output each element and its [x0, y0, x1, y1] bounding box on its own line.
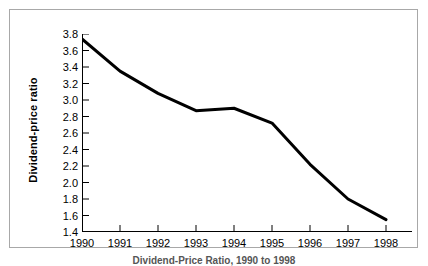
y-axis-tick-label: 3.8 — [40, 29, 78, 40]
y-axis-ticks — [82, 34, 89, 232]
y-axis-tick-label: 2.8 — [40, 111, 78, 122]
x-axis-tick-labels: 199019911992199319941995199619971998 — [10, 238, 428, 254]
y-axis-tick-label: 2.4 — [40, 144, 78, 155]
y-axis-group — [82, 34, 89, 232]
figure-frame: Dividend-price ratio 3.83.63.43.23.02.82… — [9, 9, 418, 248]
y-axis-tick-label: 2.0 — [40, 177, 78, 188]
y-axis-tick-label: 3.6 — [40, 45, 78, 56]
figure-caption: Dividend-Price Ratio, 1990 to 1998 — [0, 255, 428, 266]
y-axis-tick-label: 1.6 — [40, 210, 78, 221]
x-axis-tick-label: 1997 — [336, 238, 360, 249]
y-axis-title-label: Dividend-price ratio — [27, 77, 39, 182]
x-axis-tick-label: 1992 — [146, 238, 170, 249]
x-axis-tick-label: 1996 — [298, 238, 322, 249]
x-axis-tick-label: 1995 — [260, 238, 284, 249]
y-axis-tick-label: 1.8 — [40, 194, 78, 205]
line-chart-plot — [82, 34, 412, 232]
x-axis-tick-label: 1994 — [222, 238, 246, 249]
y-axis-tick-label: 3.0 — [40, 95, 78, 106]
y-axis-tick-label: 2.6 — [40, 128, 78, 139]
x-axis-tick-label: 1991 — [108, 238, 132, 249]
x-axis-tick-label: 1993 — [184, 238, 208, 249]
x-axis-tick-label: 1998 — [374, 238, 398, 249]
data-series-line — [82, 39, 386, 220]
plot-area — [82, 34, 412, 232]
y-axis-tick-label: 3.2 — [40, 78, 78, 89]
x-axis-tick-label: 1990 — [70, 238, 94, 249]
y-axis-tick-label: 2.2 — [40, 161, 78, 172]
x-axis-ticks — [82, 225, 386, 232]
y-axis-tick-label: 1.4 — [40, 227, 78, 238]
y-axis-tick-labels: 3.83.63.43.23.02.82.62.42.22.01.81.61.4 — [40, 34, 78, 232]
y-axis-tick-label: 3.4 — [40, 62, 78, 73]
x-axis-group — [82, 225, 412, 232]
